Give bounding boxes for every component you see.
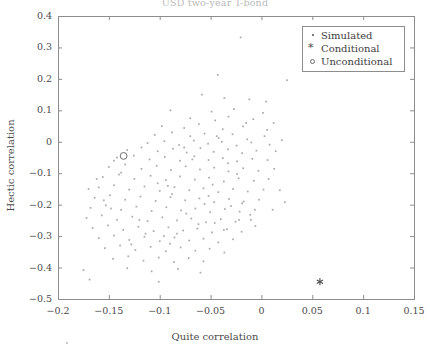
legend-label-conditional: Conditional bbox=[321, 42, 380, 55]
y-tick-label: 0.3 bbox=[0, 41, 52, 52]
y-axis-title: Hectic correlation bbox=[5, 101, 16, 231]
y-tick-label: −0.4 bbox=[0, 262, 52, 273]
series-unconditional bbox=[120, 153, 127, 160]
legend-item-unconditional: Unconditional bbox=[306, 55, 400, 68]
conditional-marker-icon: * bbox=[306, 42, 321, 55]
y-tick-label: −0.2 bbox=[0, 199, 52, 210]
series-simulated bbox=[83, 37, 288, 283]
y-tick-label: −0.3 bbox=[0, 230, 52, 241]
y-tick-label: −0.1 bbox=[0, 167, 52, 178]
unconditional-marker-icon bbox=[306, 55, 321, 68]
legend-label-unconditional: Unconditional bbox=[321, 55, 392, 68]
series-conditional bbox=[317, 278, 323, 285]
x-axis-title: Quite correlation bbox=[0, 331, 430, 342]
y-tick-label: 0 bbox=[0, 136, 52, 147]
chart-legend: Simulated * Conditional Unconditional bbox=[302, 26, 405, 72]
y-tick-label: 0.4 bbox=[0, 10, 52, 21]
x-tick-label: 0.15 bbox=[384, 305, 430, 316]
y-tick-label: 0.1 bbox=[0, 104, 52, 115]
legend-label-simulated: Simulated bbox=[321, 29, 372, 42]
y-tick-label: 0.2 bbox=[0, 73, 52, 84]
legend-item-simulated: Simulated bbox=[306, 29, 400, 42]
y-tick-label: −0.5 bbox=[0, 293, 52, 304]
stray-speck-bottom-left bbox=[66, 342, 68, 344]
legend-item-conditional: * Conditional bbox=[306, 42, 400, 55]
chart-figure: USD two-year T-bond Quite correlation He… bbox=[0, 0, 430, 353]
